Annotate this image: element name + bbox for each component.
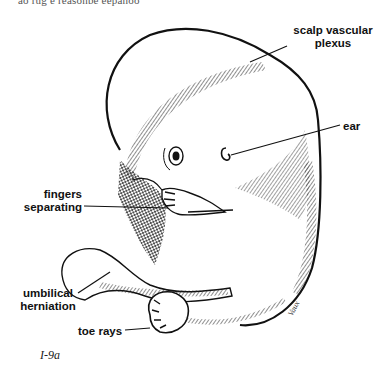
chest-shading	[118, 160, 166, 265]
label-line: umbilical	[20, 287, 76, 300]
label-ear: ear	[343, 120, 360, 133]
label-line: fingers	[18, 188, 82, 201]
label-umbilical-herniation: umbilical herniation	[20, 287, 76, 313]
leader-toe	[125, 328, 150, 330]
label-line: plexus	[288, 37, 377, 50]
label-toe-rays: toe rays	[78, 325, 122, 338]
scalp-plexus-band	[125, 62, 266, 180]
ear	[222, 148, 230, 160]
foot	[149, 292, 189, 333]
label-line: separating	[18, 201, 82, 214]
label-line: scalp vascular	[288, 24, 377, 37]
label-scalp-vascular-plexus: scalp vascular plexus	[288, 24, 377, 50]
label-line: herniation	[20, 300, 76, 313]
leader-scalp	[250, 46, 287, 62]
figure-caption: I-9a	[40, 348, 60, 363]
leader-ear	[231, 125, 340, 155]
label-fingers-separating: fingers separating	[18, 188, 82, 214]
